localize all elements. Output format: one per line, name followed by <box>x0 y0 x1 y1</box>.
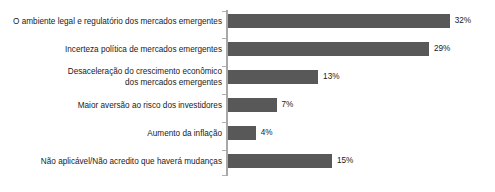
horizontal-bar-chart: O ambiente legal e regulatório dos merca… <box>0 0 495 192</box>
category-label: Desaceleração do crescimento econômico d… <box>2 67 222 88</box>
category-label: Aumento da inflação <box>2 129 222 140</box>
bar <box>228 126 256 140</box>
category-label: Maior aversão ao risco dos investidores <box>2 101 222 112</box>
bar <box>228 154 332 168</box>
bar-row: Desaceleração do crescimento econômico d… <box>0 70 495 98</box>
bar <box>228 14 450 28</box>
bar-value-label: 15% <box>337 154 353 168</box>
bar-value-label: 13% <box>323 70 339 84</box>
bar-row: Maior aversão ao risco dos investidores … <box>0 98 495 126</box>
category-label: O ambiente legal e regulatório dos merca… <box>2 17 222 28</box>
bar-row: O ambiente legal e regulatório dos merca… <box>0 14 495 42</box>
bar-row: Não aplicável/Não acredito que haverá mu… <box>0 154 495 182</box>
bar <box>228 70 318 84</box>
bar-row: Aumento da inflação 4% <box>0 126 495 154</box>
bar-row: Incerteza política de mercados emergente… <box>0 42 495 70</box>
bar-value-label: 7% <box>282 98 294 112</box>
bar-value-label: 4% <box>261 126 273 140</box>
bar-value-label: 29% <box>434 42 450 56</box>
category-label: Incerteza política de mercados emergente… <box>2 45 222 56</box>
bar <box>228 42 429 56</box>
bar <box>228 98 277 112</box>
category-label: Não aplicável/Não acredito que haverá mu… <box>2 157 222 168</box>
axis-tick <box>222 11 226 12</box>
bar-value-label: 32% <box>455 14 471 28</box>
